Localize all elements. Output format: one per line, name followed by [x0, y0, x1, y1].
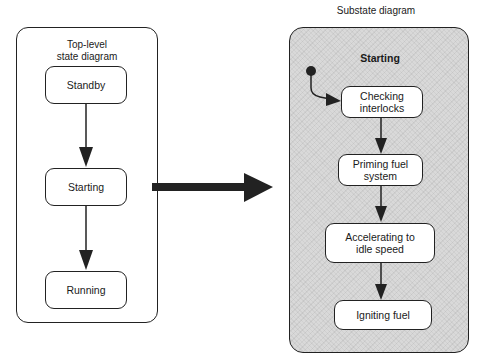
transition-accelerating-to-igniting — [375, 263, 387, 300]
transition-priming-to-accelerating — [375, 186, 387, 222]
diagram-connectors — [0, 0, 487, 364]
transition-checking-to-priming — [375, 118, 387, 154]
expand-arrow-icon — [152, 173, 273, 202]
transition-standby-to-starting — [79, 104, 93, 167]
initial-state-icon — [306, 66, 341, 106]
transition-starting-to-running — [79, 206, 93, 270]
